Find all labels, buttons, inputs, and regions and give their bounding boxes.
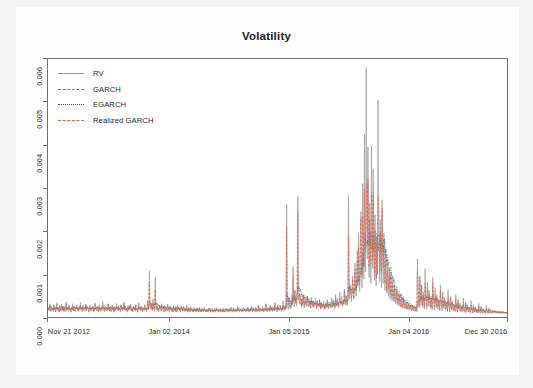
legend-swatch-icon bbox=[58, 86, 84, 93]
legend-swatch-icon bbox=[58, 101, 84, 108]
legend-label: EGARCH bbox=[93, 100, 126, 109]
y-tick-label: 0.001 bbox=[36, 284, 45, 303]
y-axis: 0.0000.0010.0020.0030.0040.0050.006 bbox=[0, 58, 47, 318]
x-tick-mark bbox=[47, 318, 48, 322]
x-tick-mark bbox=[169, 318, 170, 322]
page-artifact-right bbox=[519, 0, 533, 388]
y-tick-label: 0.000 bbox=[36, 327, 45, 346]
chart-legend: RVGARCHEGARCHRealized GARCH bbox=[58, 66, 178, 128]
legend-label: GARCH bbox=[93, 85, 121, 94]
x-tick-label: Jan 04 2016 bbox=[388, 327, 429, 336]
y-tick-label: 0.002 bbox=[36, 240, 45, 259]
page-artifact-top bbox=[0, 0, 533, 7]
x-tick-mark bbox=[507, 318, 508, 322]
legend-item-rv: RV bbox=[58, 66, 178, 82]
x-tick-label: Dec 30 2016 bbox=[465, 327, 507, 336]
y-tick-label: 0.003 bbox=[36, 197, 45, 216]
legend-swatch-icon bbox=[58, 117, 84, 124]
x-tick-label: Jan 05 2015 bbox=[268, 327, 309, 336]
x-tick-mark bbox=[409, 318, 410, 322]
x-tick-label: Nov 21 2012 bbox=[48, 327, 90, 336]
y-tick-label: 0.005 bbox=[36, 110, 45, 129]
legend-item-egarch: EGARCH bbox=[58, 97, 178, 113]
chart-title: Volatility bbox=[0, 30, 533, 42]
page-artifact-bottom bbox=[0, 375, 533, 388]
y-tick-label: 0.004 bbox=[36, 154, 45, 173]
legend-label: Realized GARCH bbox=[93, 116, 153, 125]
legend-label: RV bbox=[93, 69, 104, 78]
legend-swatch-icon bbox=[58, 70, 84, 77]
y-tick-label: 0.006 bbox=[36, 67, 45, 86]
series-line-realized-garch bbox=[48, 179, 507, 314]
legend-item-garch: GARCH bbox=[58, 82, 178, 98]
x-axis: Nov 21 2012Jan 02 2014Jan 05 2015Jan 04 … bbox=[47, 318, 508, 358]
x-tick-mark bbox=[289, 318, 290, 322]
x-tick-label: Jan 02 2014 bbox=[149, 327, 190, 336]
chart-page: Volatility 0.0000.0010.0020.0030.0040.00… bbox=[0, 0, 533, 388]
legend-item-realized-garch: Realized GARCH bbox=[58, 113, 178, 129]
